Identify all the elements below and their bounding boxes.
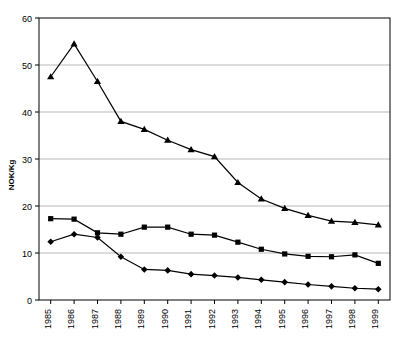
data-point-marker (352, 285, 359, 292)
series-layer (47, 40, 382, 292)
data-point-marker (258, 276, 265, 283)
data-point-marker (94, 78, 101, 84)
chart-container: 0102030405060 19851986198719881989199019… (0, 0, 403, 337)
y-axis-tick-label: 40 (22, 108, 32, 118)
data-point-marker (47, 238, 54, 245)
data-point-marker (165, 225, 170, 230)
x-axis-tick-label: 1997 (324, 309, 334, 329)
data-point-marker (235, 240, 240, 245)
x-axis-tick-label: 1993 (230, 309, 240, 329)
data-point-marker (72, 217, 77, 222)
data-point-marker (211, 272, 218, 279)
data-point-marker (376, 261, 381, 266)
data-point-marker (212, 233, 217, 238)
x-axis-tick-label: 1992 (207, 309, 217, 329)
y-axis-tick-label: 0 (27, 296, 32, 306)
x-axis-tick-label: 1986 (66, 309, 76, 329)
series-diamond (47, 231, 381, 293)
series-triangle (47, 40, 382, 227)
data-point-marker (282, 251, 287, 256)
x-axis-tick-label: 1987 (90, 309, 100, 329)
data-point-marker (258, 195, 265, 201)
data-point-marker (281, 279, 288, 286)
x-axis-tick-label: 1999 (370, 309, 380, 329)
x-axis-tick-label: 1994 (253, 309, 263, 329)
x-axis-tick-labels: 1985198619871988198919901991199219931994… (43, 309, 381, 329)
x-axis-tick-label: 1990 (160, 309, 170, 329)
x-axis-ticks (51, 300, 379, 304)
data-point-marker (329, 254, 334, 259)
data-point-marker (235, 274, 242, 281)
data-point-marker (188, 271, 195, 278)
y-axis-tick-label: 30 (22, 155, 32, 165)
data-point-marker (141, 266, 148, 273)
x-axis-tick-label: 1985 (43, 309, 53, 329)
data-point-marker (164, 267, 171, 274)
y-axis-tick-label: 10 (22, 249, 32, 259)
data-point-marker (142, 225, 147, 230)
x-axis-tick-label: 1998 (347, 309, 357, 329)
data-point-marker (48, 216, 53, 221)
data-point-marker (328, 283, 335, 290)
x-axis-tick-label: 1989 (136, 309, 146, 329)
y-axis-ticks (35, 18, 39, 300)
data-point-marker (71, 231, 78, 238)
x-axis-tick-label: 1995 (277, 309, 287, 329)
y-axis-title: NOK/Kg (7, 160, 16, 191)
series-line (51, 44, 379, 225)
data-point-marker (305, 281, 312, 288)
data-point-marker (352, 252, 357, 257)
data-point-marker (118, 232, 123, 237)
y-axis-tick-label: 50 (22, 61, 32, 71)
data-point-marker (164, 137, 171, 143)
series-line (51, 234, 379, 289)
x-axis-tick-label: 1988 (113, 309, 123, 329)
data-point-marker (306, 254, 311, 259)
data-point-marker (259, 247, 264, 252)
y-axis-tick-labels: 0102030405060 (22, 14, 32, 306)
data-point-marker (117, 118, 124, 124)
y-axis-tick-label: 20 (22, 202, 32, 212)
x-axis-tick-label: 1991 (183, 309, 193, 329)
data-point-marker (375, 286, 382, 293)
x-axis-tick-label: 1996 (300, 309, 310, 329)
data-point-marker (189, 232, 194, 237)
data-point-marker (71, 40, 78, 46)
y-axis-tick-label: 60 (22, 14, 32, 24)
chart-svg: 0102030405060 19851986198719881989199019… (0, 0, 403, 337)
